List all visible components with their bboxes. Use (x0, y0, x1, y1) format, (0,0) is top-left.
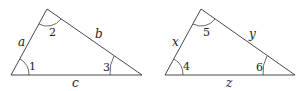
side-label-x: x (172, 35, 179, 49)
side-label-c: c (72, 76, 79, 90)
angle-label-6: 6 (256, 61, 263, 74)
angle-label-5: 5 (203, 26, 210, 39)
angle-arc-3 (110, 56, 114, 75)
triangle-abc: a b c 1 2 3 (11, 9, 142, 90)
side-label-a: a (18, 35, 25, 49)
side-label-y: y (248, 27, 256, 41)
angle-label-2: 2 (49, 26, 56, 39)
angle-label-4: 4 (183, 60, 190, 73)
angle-arc-4 (174, 59, 183, 75)
triangle-xyz: x y z 4 5 6 (165, 9, 295, 90)
side-label-b: b (95, 27, 103, 41)
side-label-z: z (225, 76, 233, 90)
angle-arc-1 (20, 59, 29, 75)
triangles-diagram: a b c 1 2 3 x y z 4 5 6 (0, 0, 308, 91)
angle-arc-6 (263, 56, 267, 75)
angle-label-1: 1 (29, 60, 36, 73)
angle-label-3: 3 (103, 61, 110, 74)
